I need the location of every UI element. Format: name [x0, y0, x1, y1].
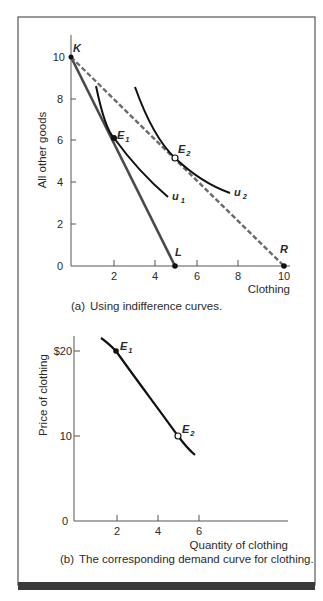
label-u2: u2 — [234, 186, 248, 201]
x-ticks-a: 2 4 6 8 10 — [111, 260, 290, 282]
point-r — [281, 263, 287, 269]
y-tick-label: 10 — [60, 430, 72, 442]
chart-b: 0 10 $20 2 4 6 Price of clothing Quantit… — [37, 336, 314, 565]
y-tick-label: 10 — [53, 51, 65, 63]
x-tick-label: 6 — [196, 525, 202, 537]
y-tick-label: 0 — [62, 515, 68, 527]
y-tick-label: $20 — [54, 345, 72, 357]
x-tick-label: 4 — [155, 525, 161, 537]
caption-b: (b)The corresponding demand curve for cl… — [60, 553, 314, 565]
x-tick-label: 2 — [111, 270, 117, 282]
y-tick-label: 2 — [57, 218, 63, 230]
label-r: R — [280, 243, 288, 255]
x-tick-label: 10 — [278, 270, 290, 282]
budget-line-kl — [71, 57, 175, 266]
point-l — [172, 263, 178, 269]
y-tick-label: 8 — [57, 93, 63, 105]
x-axis-label-a: Clothing — [248, 283, 290, 295]
label-k: K — [73, 42, 82, 54]
label-e1-a: E1 — [117, 129, 130, 144]
caption-a: (a)Using indifference curves. — [71, 300, 222, 312]
y-tick-label: 6 — [57, 134, 63, 146]
figure: 0 2 4 6 8 10 2 4 6 8 10 All other goods … — [0, 0, 323, 601]
y-ticks-a: 0 2 4 6 8 10 — [53, 51, 76, 272]
point-k — [69, 55, 74, 60]
x-tick-label: 2 — [114, 525, 120, 537]
y-axis-label-a: All other goods — [36, 111, 48, 188]
x-tick-label: 8 — [235, 270, 241, 282]
label-e2-a: E2 — [178, 143, 191, 158]
bottom-bar — [18, 582, 315, 590]
y-axis-label-b: Price of clothing — [37, 354, 49, 436]
label-e2-b: E2 — [182, 423, 195, 438]
point-e1-b — [113, 348, 119, 354]
y-tick-label: 0 — [57, 260, 63, 272]
point-e2-a — [172, 155, 178, 161]
label-u1: u1 — [172, 190, 185, 205]
x-axis-label-b: Quantity of clothing — [190, 539, 288, 551]
label-e1-b: E1 — [120, 340, 133, 355]
x-tick-label: 4 — [152, 270, 158, 282]
x-tick-label: 6 — [194, 270, 200, 282]
point-e2-b — [175, 433, 181, 439]
chart-a: 0 2 4 6 8 10 2 4 6 8 10 All other goods … — [36, 35, 290, 312]
label-l: L — [175, 246, 182, 258]
y-tick-label: 4 — [57, 176, 63, 188]
indifference-curve-u2 — [135, 87, 230, 193]
